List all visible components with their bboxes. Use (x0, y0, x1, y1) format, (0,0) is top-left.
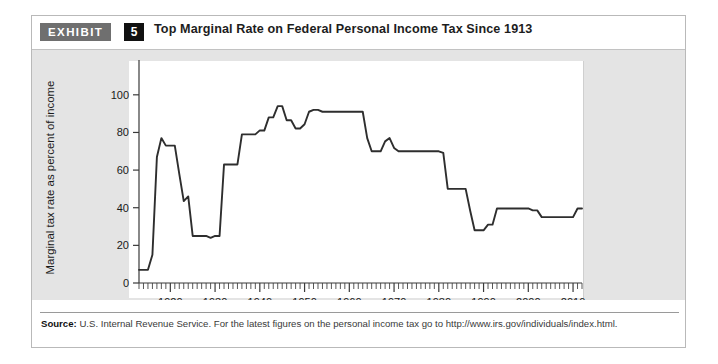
chart-background-band: 0204060801001920193019401950196019701980… (32, 50, 685, 300)
tax-rate-line-chart: 0204060801001920193019401950196019701980… (32, 50, 685, 300)
y-axis-tick-label: 60 (117, 164, 129, 176)
exhibit-header: EXHIBIT 5 Top Marginal Rate on Federal P… (32, 16, 685, 49)
y-axis-tick-label: 100 (111, 89, 129, 101)
source-text: U.S. Internal Revenue Service. For the l… (77, 318, 618, 329)
x-axis-tick-label: 1970 (382, 296, 406, 300)
x-axis-tick-label: 1940 (248, 296, 272, 300)
tax-rate-data-line (139, 106, 582, 270)
y-axis-tick-label: 20 (117, 239, 129, 251)
x-axis-tick-label: 2010 (561, 296, 585, 300)
x-axis-tick-label: 1990 (471, 296, 495, 300)
y-axis-tick-label: 40 (117, 202, 129, 214)
x-axis-tick-label: 1960 (337, 296, 361, 300)
x-axis-tick-label: 1950 (292, 296, 316, 300)
x-axis-tick-label: 2000 (516, 296, 540, 300)
x-axis-tick-label: 1980 (427, 296, 451, 300)
exhibit-card: EXHIBIT 5 Top Marginal Rate on Federal P… (31, 15, 686, 348)
exhibit-title: Top Marginal Rate on Federal Personal In… (154, 22, 532, 36)
source-label: Source: (41, 318, 77, 329)
y-axis-tick-label: 80 (117, 126, 129, 138)
y-axis-title: Marginal tax rate as percent of income (44, 81, 56, 275)
x-axis-tick-label: 1920 (158, 296, 182, 300)
exhibit-tag-label: EXHIBIT (40, 23, 111, 41)
exhibit-number-badge: 5 (124, 23, 144, 41)
x-axis-tick-label: 1930 (203, 296, 227, 300)
footer-divider (40, 312, 679, 313)
y-axis-tick-label: 0 (123, 277, 129, 289)
source-note: Source: U.S. Internal Revenue Service. F… (41, 318, 617, 329)
